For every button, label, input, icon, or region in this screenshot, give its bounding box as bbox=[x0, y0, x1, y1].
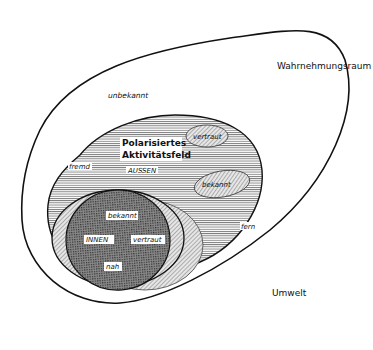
label-ellipse-bekannt: bekannt bbox=[202, 181, 231, 189]
label-inner-nah: nah bbox=[106, 263, 119, 271]
label-innen: INNEN bbox=[86, 236, 109, 244]
label-activity-field-line2: Aktivitätsfeld bbox=[122, 150, 191, 160]
label-inner-bekannt: bekannt bbox=[108, 212, 137, 220]
label-umwelt: Umwelt bbox=[272, 288, 307, 298]
label-fern: fern bbox=[241, 223, 255, 231]
label-fremd: fremd bbox=[69, 163, 90, 171]
diagram-root: Wahrnehmungsraum unbekannt Umwelt Polari… bbox=[0, 0, 373, 350]
label-ellipse-vertraut: vertraut bbox=[193, 133, 222, 141]
label-wahrnehmungsraum: Wahrnehmungsraum bbox=[277, 61, 371, 71]
label-unbekannt: unbekannt bbox=[108, 91, 149, 100]
label-activity-field-line1: Polarisiertes bbox=[122, 138, 186, 148]
label-inner-vertraut: vertraut bbox=[133, 236, 162, 244]
perception-space-diagram: Wahrnehmungsraum unbekannt Umwelt Polari… bbox=[0, 0, 373, 350]
label-aussen: AUSSEN bbox=[127, 167, 157, 175]
